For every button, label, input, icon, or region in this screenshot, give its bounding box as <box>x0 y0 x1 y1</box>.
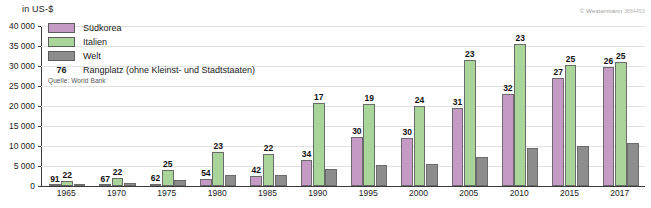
x-tick-label-2015: 2015 <box>544 188 594 198</box>
legend-swatch-italien <box>48 37 75 47</box>
bar-sdkorea-1990 <box>301 160 313 186</box>
bar-italien-2017 <box>615 62 627 186</box>
bar-italien-2000 <box>414 106 426 186</box>
y-tick-mark <box>38 186 41 187</box>
x-tick-label-1990: 1990 <box>293 188 343 198</box>
y-tick-mark <box>38 146 41 147</box>
y-tick-label: 35 000 <box>1 41 35 51</box>
bar-welt-1990 <box>325 169 337 186</box>
legend-label-suedkorea: Südkorea <box>83 23 122 33</box>
bar-sdkorea-1985 <box>250 176 262 186</box>
y-tick-mark <box>38 26 41 27</box>
y-tick-label: 40 000 <box>1 21 35 31</box>
x-tick-label-2000: 2000 <box>393 188 443 198</box>
bar-italien-1980 <box>212 152 224 186</box>
bar-welt-2010 <box>527 148 539 186</box>
bar-sdkorea-1980 <box>200 179 212 186</box>
x-tick-label-2010: 2010 <box>494 188 544 198</box>
bar-group: 2725 <box>552 26 588 186</box>
bar-italien-1975 <box>162 170 174 186</box>
bar-group: 3024 <box>401 26 437 186</box>
rank-label: 23 <box>510 33 530 43</box>
rank-label: 25 <box>561 54 581 64</box>
legend-label-italien: Italien <box>83 37 107 47</box>
rank-label: 19 <box>359 93 379 103</box>
y-tick-label: 15 000 <box>1 121 35 131</box>
bar-sdkorea-2010 <box>502 94 514 186</box>
x-tick-label-1975: 1975 <box>142 188 192 198</box>
bar-italien-1985 <box>263 154 275 186</box>
bar-italien-2010 <box>514 44 526 186</box>
bar-welt-2015 <box>577 146 589 186</box>
bar-welt-1965 <box>74 184 86 186</box>
bar-sdkorea-2005 <box>452 108 464 186</box>
bar-welt-1980 <box>225 175 237 186</box>
bar-sdkorea-2015 <box>552 78 564 186</box>
bar-sdkorea-1970 <box>99 184 111 186</box>
bar-welt-1995 <box>376 165 388 186</box>
bar-italien-1995 <box>363 104 375 186</box>
bar-italien-2005 <box>464 60 476 186</box>
x-tick-label-1965: 1965 <box>41 188 91 198</box>
legend-rank-description: Rangplatz (ohne Kleinst- und Stadtstaate… <box>83 65 255 75</box>
rank-label: 23 <box>460 49 480 59</box>
y-tick-mark <box>38 126 41 127</box>
copyright-text: © Westermann <box>580 8 622 14</box>
bar-welt-2000 <box>426 164 438 186</box>
x-tick-label-1980: 1980 <box>192 188 242 198</box>
rank-label: 25 <box>158 159 178 169</box>
bar-italien-1990 <box>313 103 325 186</box>
y-tick-label: 10 000 <box>1 141 35 151</box>
y-tick-label: 25 000 <box>1 81 35 91</box>
legend-label-welt: Welt <box>83 51 101 61</box>
bar-sdkorea-2017 <box>603 67 615 186</box>
bar-group: 3223 <box>502 26 538 186</box>
legend-swatch-welt <box>48 51 75 61</box>
rank-label: 22 <box>57 170 77 180</box>
legend-item-suedkorea: Südkorea <box>48 21 255 34</box>
bar-italien-1970 <box>112 178 124 186</box>
copyright-number: 3884453 <box>624 8 645 14</box>
bar-welt-2017 <box>627 143 639 186</box>
rank-label: 23 <box>208 141 228 151</box>
legend-item-italien: Italien <box>48 35 255 48</box>
legend-item-rank: 76 Rangplatz (ohne Kleinst- und Stadtsta… <box>48 63 255 76</box>
bar-welt-1970 <box>124 183 136 186</box>
x-tick-label-1970: 1970 <box>91 188 141 198</box>
y-axis-unit-label: in US-$ <box>22 4 53 14</box>
y-tick-mark <box>38 106 41 107</box>
y-tick-mark <box>38 66 41 67</box>
bar-sdkorea-2000 <box>401 138 413 186</box>
copyright-notice: © Westermann 3884453 <box>580 8 645 14</box>
x-tick-label-1995: 1995 <box>343 188 393 198</box>
bar-sdkorea-1965 <box>49 184 61 186</box>
bar-italien-1965 <box>61 181 73 186</box>
x-tick-label-1985: 1985 <box>242 188 292 198</box>
rank-label: 22 <box>259 143 279 153</box>
y-tick-label: 5 000 <box>1 161 35 171</box>
y-tick-mark <box>38 166 41 167</box>
x-tick-label-2005: 2005 <box>444 188 494 198</box>
bar-welt-2005 <box>476 157 488 186</box>
y-tick-label: 0 <box>1 181 35 191</box>
legend-swatch-suedkorea <box>48 23 75 33</box>
y-tick-label: 30 000 <box>1 61 35 71</box>
bar-group: 3417 <box>301 26 337 186</box>
rank-label: 17 <box>309 92 329 102</box>
legend-rank-number: 76 <box>48 65 75 75</box>
x-tick-label-2017: 2017 <box>595 188 645 198</box>
bar-welt-1975 <box>174 180 186 186</box>
rank-label: 22 <box>108 167 128 177</box>
bar-welt-1985 <box>275 175 287 186</box>
legend-item-welt: Welt <box>48 49 255 62</box>
bar-sdkorea-1995 <box>351 137 363 186</box>
y-tick-mark <box>38 46 41 47</box>
bar-group: 3123 <box>452 26 488 186</box>
bar-group: 3019 <box>351 26 387 186</box>
gridline <box>41 186 645 187</box>
chart-root: in US-$ © Westermann 3884453 05 00010 00… <box>0 0 651 208</box>
y-tick-mark <box>38 86 41 87</box>
rank-label: 25 <box>611 51 631 61</box>
rank-label: 24 <box>410 95 430 105</box>
legend-source: Quelle: World Bank <box>48 77 255 84</box>
